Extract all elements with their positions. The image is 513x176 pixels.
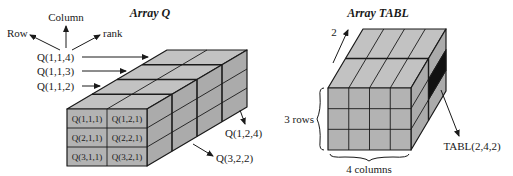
cell-q321: Q(3,2,1) [112,152,143,162]
layer-label-q112: Q(1,1,2) [37,80,75,93]
arrow-tabl242-icon [441,90,459,136]
rank-arrow-icon [72,35,100,50]
array-q-figure: Array Q Row Column rank Q(1,1,4) Q(1,1,3… [7,6,263,166]
arrays-diagram: Array Q Row Column rank Q(1,1,4) Q(1,1,3… [0,0,513,176]
column-axis-label: Column [48,11,84,23]
rows-label: 3 rows [284,113,314,125]
cell-q311: Q(3,1,1) [72,152,103,162]
array-q-cube [67,50,247,166]
columns-label: 4 columns [346,163,392,175]
row-axis-label: Row [7,27,28,39]
layer-label-q113: Q(1,1,3) [37,65,75,78]
array-tabl-cube [328,29,446,150]
axis-indicator: Row Column rank [7,11,123,50]
row-arrow-icon [30,35,60,50]
depth-label: 2 [331,26,337,38]
callout-tabl242: TABL(2,4,2) [443,140,501,153]
arrow-q322-icon [193,144,213,156]
columns-brace-icon [330,154,409,161]
cell-q211: Q(2,1,1) [72,133,103,143]
rank-axis-label: rank [103,27,123,39]
cell-q221: Q(2,2,1) [112,133,143,143]
rows-brace-icon [317,88,324,150]
callout-q322: Q(3,2,2) [216,152,254,165]
cell-q111: Q(1,1,1) [72,114,103,124]
callout-q124: Q(1,2,4) [225,127,263,140]
array-q-title: Array Q [129,6,171,20]
cell-q121: Q(1,2,1) [112,114,143,124]
array-tabl-figure: Array TABL 2 [284,6,501,175]
arrow-q124-icon [240,110,245,124]
layer-label-q114: Q(1,1,4) [37,51,75,64]
array-tabl-title: Array TABL [346,6,409,20]
